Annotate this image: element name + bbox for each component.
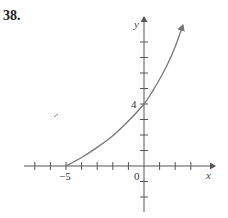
stray-mark (54, 114, 58, 117)
tick-label-neg5: −5 (59, 170, 71, 182)
x-axis-label: x (205, 169, 211, 181)
tick-label-0: 0 (134, 170, 140, 182)
graph: y x −5 0 4 (0, 0, 228, 218)
y-axis-label: y (133, 18, 139, 30)
function-curve (66, 25, 183, 166)
axes (24, 17, 215, 212)
tick-label-4: 4 (131, 98, 137, 110)
